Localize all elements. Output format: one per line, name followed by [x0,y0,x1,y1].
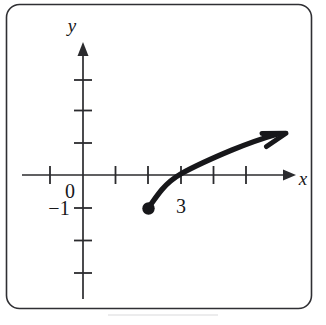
graph-canvas: y x 0 −1 3 [0,0,326,325]
figure-container: y x 0 −1 3 [0,0,326,325]
y-tick-label-minus1: −1 [48,197,69,219]
x-axis-label: x [298,168,308,189]
x-axis-arrowhead [283,170,296,181]
figure-frame [7,5,312,309]
y-axis-arrowhead [78,42,89,56]
y-axis-label: y [66,15,77,36]
x-tick-label-3: 3 [176,195,186,217]
function-curve [149,135,277,208]
curve-endpoint-dot [142,202,154,214]
